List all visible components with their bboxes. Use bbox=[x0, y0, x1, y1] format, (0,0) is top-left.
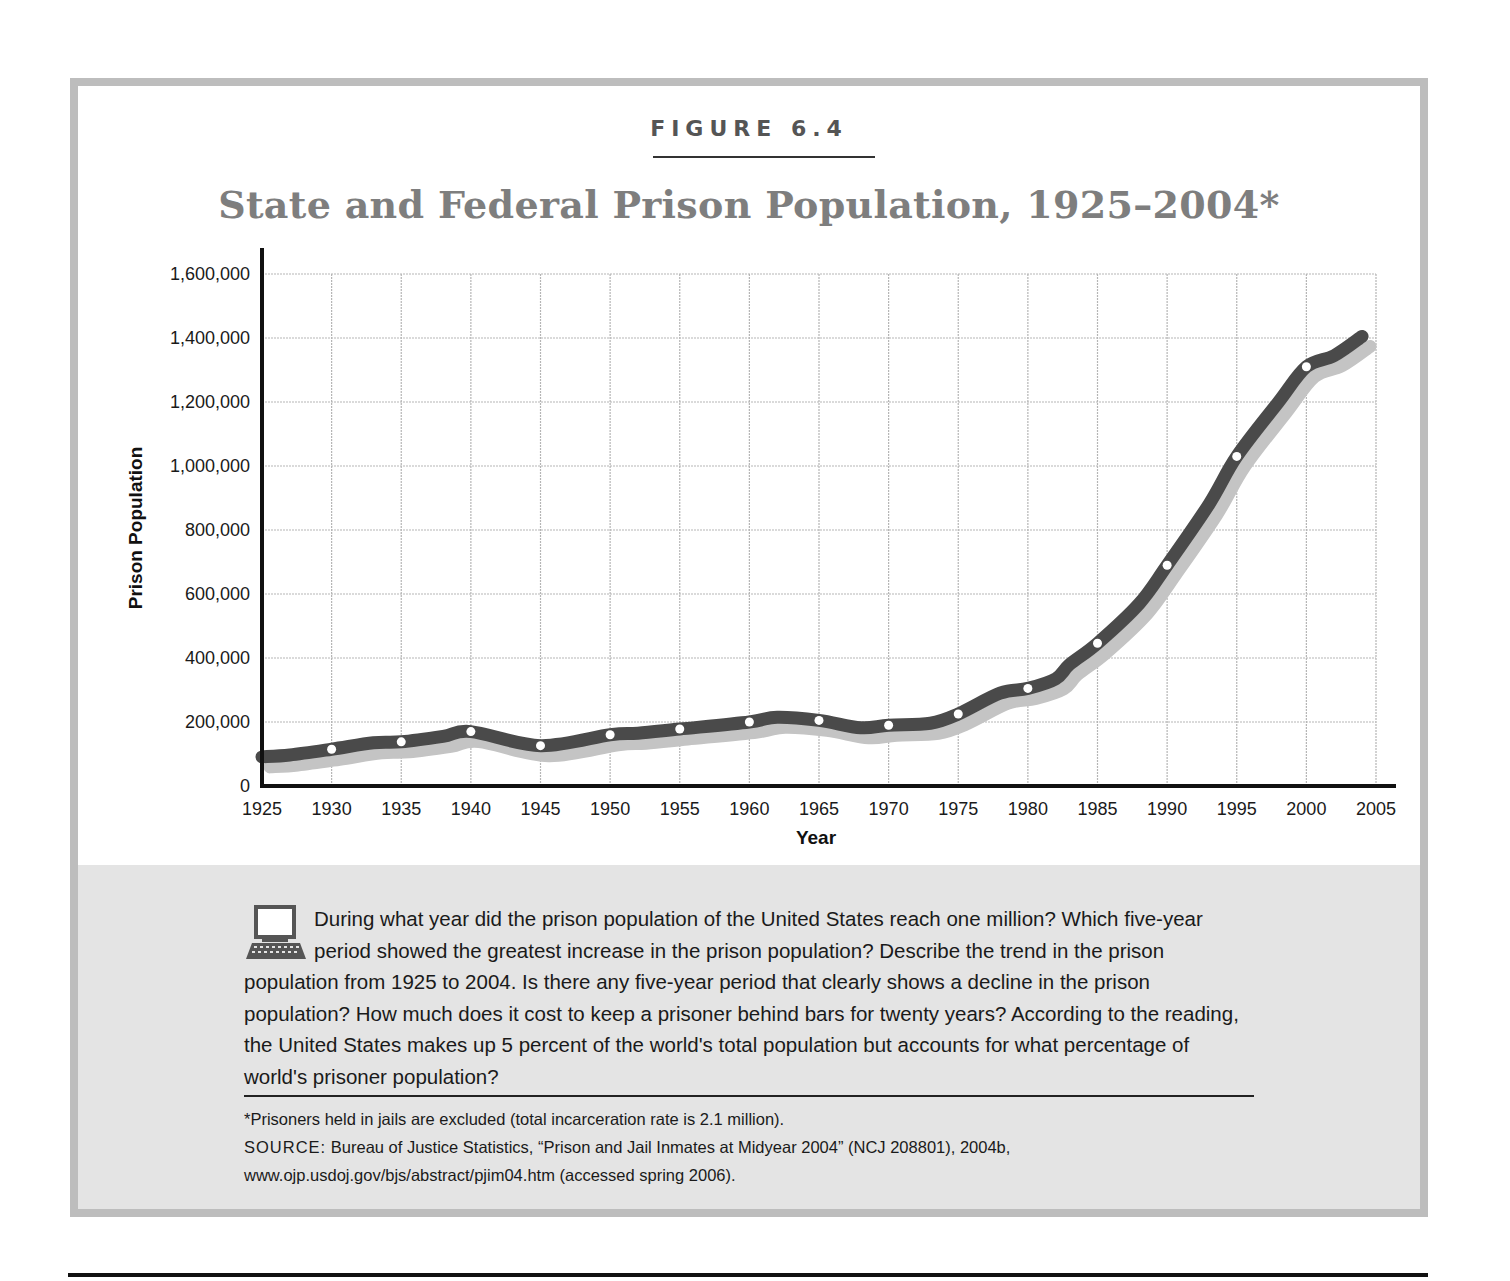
svg-text:1960: 1960 bbox=[729, 799, 769, 819]
svg-text:200,000: 200,000 bbox=[185, 712, 250, 732]
svg-text:600,000: 600,000 bbox=[185, 584, 250, 604]
x-axis-title: Year bbox=[796, 827, 837, 848]
svg-text:1975: 1975 bbox=[938, 799, 978, 819]
y-axis-title: Prison Population bbox=[125, 447, 146, 610]
svg-text:1950: 1950 bbox=[590, 799, 630, 819]
svg-text:1,200,000: 1,200,000 bbox=[170, 392, 250, 412]
svg-text:1955: 1955 bbox=[660, 799, 700, 819]
page-bottom-rule bbox=[68, 1273, 1428, 1277]
svg-text:400,000: 400,000 bbox=[185, 648, 250, 668]
chart-axes bbox=[260, 248, 1396, 788]
svg-text:1990: 1990 bbox=[1147, 799, 1187, 819]
source-text: Bureau of Justice Statistics, “Prison an… bbox=[244, 1138, 1010, 1184]
source-label: SOURCE: bbox=[244, 1138, 326, 1156]
svg-text:1925: 1925 bbox=[242, 799, 282, 819]
svg-text:1985: 1985 bbox=[1077, 799, 1117, 819]
svg-text:800,000: 800,000 bbox=[185, 520, 250, 540]
svg-text:1940: 1940 bbox=[451, 799, 491, 819]
question-text: During what year did the prison populati… bbox=[244, 907, 1239, 1088]
svg-text:1,000,000: 1,000,000 bbox=[170, 456, 250, 476]
svg-text:2005: 2005 bbox=[1356, 799, 1396, 819]
line-chart: 0200,000400,000600,000800,0001,000,0001,… bbox=[8, 8, 1510, 908]
question-rule bbox=[244, 1095, 1254, 1097]
svg-text:1945: 1945 bbox=[520, 799, 560, 819]
svg-text:1970: 1970 bbox=[869, 799, 909, 819]
chart-notes: *Prisoners held in jails are excluded (t… bbox=[244, 1105, 1254, 1189]
svg-text:1930: 1930 bbox=[312, 799, 352, 819]
svg-text:0: 0 bbox=[240, 776, 250, 796]
svg-text:2000: 2000 bbox=[1286, 799, 1326, 819]
svg-text:1,600,000: 1,600,000 bbox=[170, 264, 250, 284]
x-axis-ticks: 1925193019351940194519501955196019651970… bbox=[242, 799, 1396, 819]
source-line: SOURCE: Bureau of Justice Statistics, “P… bbox=[244, 1133, 1254, 1189]
svg-text:1995: 1995 bbox=[1217, 799, 1257, 819]
svg-text:1965: 1965 bbox=[799, 799, 839, 819]
y-axis-ticks: 0200,000400,000600,000800,0001,000,0001,… bbox=[170, 264, 250, 796]
svg-text:1,400,000: 1,400,000 bbox=[170, 328, 250, 348]
figure-frame: FIGURE 6.4 State and Federal Prison Popu… bbox=[70, 78, 1428, 1217]
computer-icon bbox=[244, 905, 308, 961]
footnote: *Prisoners held in jails are excluded (t… bbox=[244, 1105, 1254, 1133]
question-panel: During what year did the prison populati… bbox=[78, 865, 1420, 1209]
line-shadow bbox=[270, 346, 1370, 766]
discussion-question: During what year did the prison populati… bbox=[244, 903, 1254, 1092]
svg-text:1980: 1980 bbox=[1008, 799, 1048, 819]
svg-text:1935: 1935 bbox=[381, 799, 421, 819]
